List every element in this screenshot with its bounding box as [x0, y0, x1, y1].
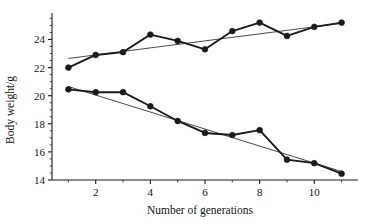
- data-point-marker: [311, 160, 317, 166]
- data-point-marker: [202, 130, 208, 136]
- y-axis-tick-label: 22: [34, 62, 45, 74]
- data-point-marker: [311, 24, 317, 30]
- data-point-marker: [257, 20, 263, 26]
- x-axis-tick-label: 8: [257, 186, 263, 198]
- data-point-marker: [120, 89, 126, 95]
- y-axis-tick-label: 16: [34, 146, 46, 158]
- y-axis-title: Body weight/g: [4, 76, 17, 144]
- data-point-marker: [339, 171, 345, 177]
- data-point-marker: [93, 89, 99, 95]
- data-point-marker: [93, 52, 99, 58]
- data-point-marker: [229, 132, 235, 138]
- chart-container: 141618202224 246810 Body weight/g Number…: [0, 0, 366, 221]
- x-axis-tick-label: 2: [93, 186, 99, 198]
- data-point-marker: [284, 157, 290, 163]
- data-point-marker: [120, 49, 126, 55]
- data-point-marker: [175, 118, 181, 124]
- y-axis-tick-label: 14: [34, 174, 46, 186]
- y-axis-tick-label: 18: [34, 118, 46, 130]
- y-axis-tick-label: 24: [34, 33, 46, 45]
- data-point-marker: [202, 46, 208, 52]
- x-axis-tick-label: 10: [309, 186, 321, 198]
- body-weight-generations-line-chart: 141618202224 246810 Body weight/g Number…: [0, 0, 366, 221]
- data-point-marker: [229, 28, 235, 34]
- data-point-marker: [284, 33, 290, 39]
- data-point-marker: [65, 86, 71, 92]
- x-axis-tick-label: 6: [202, 186, 208, 198]
- data-point-marker: [65, 65, 71, 71]
- data-point-marker: [147, 32, 153, 38]
- data-point-marker: [147, 103, 153, 109]
- y-axis-tick-label: 20: [34, 90, 46, 102]
- data-point-marker: [339, 20, 345, 26]
- x-axis-title: Number of generations: [147, 204, 254, 217]
- data-point-marker: [257, 127, 263, 133]
- x-axis-tick-label: 4: [148, 186, 154, 198]
- data-point-marker: [175, 38, 181, 44]
